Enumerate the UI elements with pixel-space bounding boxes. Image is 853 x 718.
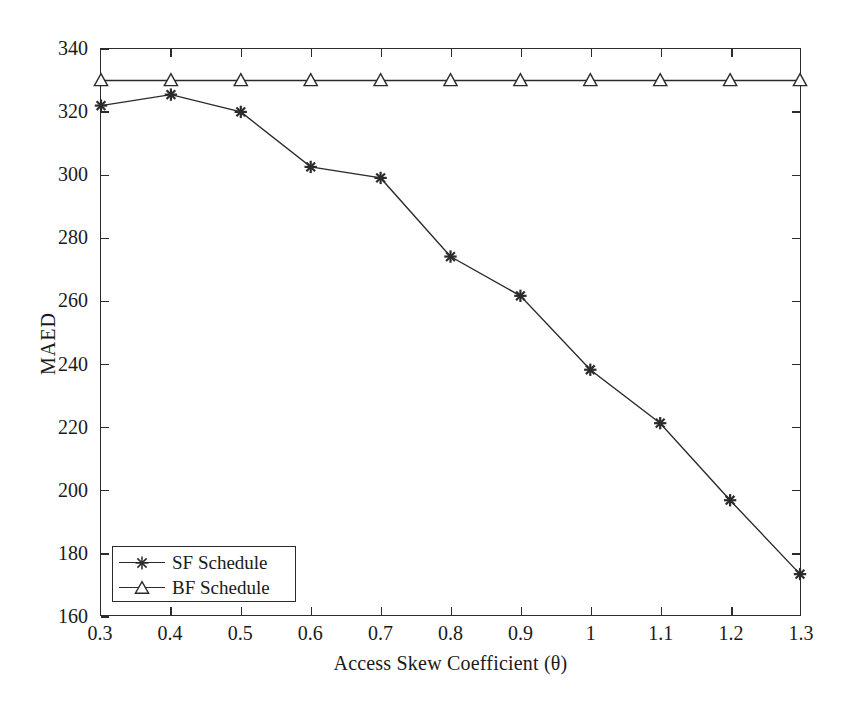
x-axis-tick bbox=[241, 607, 242, 615]
triangle-marker-icon bbox=[234, 74, 247, 86]
chart-legend: SF Schedule BF Schedule bbox=[112, 546, 296, 602]
legend-entry-bf: BF Schedule bbox=[119, 575, 289, 600]
asterisk-marker-icon bbox=[514, 290, 526, 302]
y-axis-tick bbox=[101, 553, 109, 554]
asterisk-marker-icon bbox=[119, 553, 165, 573]
x-axis-tick bbox=[731, 49, 732, 57]
y-axis-tick-label: 180 bbox=[58, 543, 88, 563]
legend-label-sf: SF Schedule bbox=[165, 553, 268, 573]
y-axis-title: MAED bbox=[37, 284, 60, 404]
y-axis-tick bbox=[792, 175, 800, 176]
triangle-marker-icon bbox=[723, 74, 736, 86]
triangle-marker-icon bbox=[793, 74, 806, 86]
y-axis-tick-label: 260 bbox=[58, 290, 88, 310]
x-axis-tick bbox=[731, 607, 732, 615]
asterisk-marker-icon bbox=[95, 99, 107, 111]
x-axis-tick bbox=[241, 49, 242, 57]
y-axis-tick-label: 200 bbox=[58, 480, 88, 500]
asterisk-marker-icon bbox=[374, 172, 386, 184]
plot-canvas bbox=[101, 49, 800, 615]
plot-area bbox=[100, 48, 801, 616]
y-axis-tick-label: 300 bbox=[58, 164, 88, 184]
x-axis-tick-label: 1.3 bbox=[771, 622, 831, 644]
x-axis-tick-label: 1 bbox=[561, 622, 621, 644]
x-axis-tick bbox=[591, 607, 592, 615]
y-axis-tick-label: 240 bbox=[58, 354, 88, 374]
triangle-marker-icon bbox=[584, 74, 597, 86]
triangle-marker-icon bbox=[164, 74, 177, 86]
series-line-sf-schedule bbox=[101, 95, 800, 575]
x-axis-tick bbox=[311, 49, 312, 57]
legend-entry-sf: SF Schedule bbox=[119, 550, 289, 575]
y-axis-tick bbox=[792, 301, 800, 302]
y-axis-tick bbox=[101, 301, 109, 302]
x-axis-tick-label: 1.2 bbox=[701, 622, 761, 644]
triangle-marker-icon bbox=[514, 74, 527, 86]
y-axis-tick-label: 320 bbox=[58, 101, 88, 121]
triangle-marker-icon bbox=[654, 74, 667, 86]
asterisk-marker-icon bbox=[165, 88, 177, 100]
y-axis-tick bbox=[792, 364, 800, 365]
x-axis-tick bbox=[381, 49, 382, 57]
asterisk-marker-icon bbox=[444, 250, 456, 262]
x-axis-tick bbox=[521, 607, 522, 615]
triangle-marker-icon bbox=[94, 74, 107, 86]
x-axis-tick bbox=[451, 49, 452, 57]
y-axis-tick-label: 220 bbox=[58, 417, 88, 437]
y-axis-tick bbox=[101, 490, 109, 491]
x-axis-tick bbox=[451, 607, 452, 615]
triangle-marker-icon bbox=[119, 578, 165, 598]
x-axis-tick bbox=[661, 49, 662, 57]
chart-figure: 160180200220240260280300320340 MAED Acce… bbox=[0, 0, 853, 718]
y-axis-tick bbox=[101, 238, 109, 239]
x-axis-tick bbox=[521, 49, 522, 57]
x-axis-tick bbox=[311, 607, 312, 615]
x-axis-tick bbox=[170, 607, 171, 615]
legend-label-bf: BF Schedule bbox=[165, 578, 270, 598]
x-axis-title: Access Skew Coefficient (θ) bbox=[100, 652, 801, 675]
x-axis-tick bbox=[591, 49, 592, 57]
triangle-marker-icon bbox=[374, 74, 387, 86]
asterisk-marker-icon bbox=[794, 568, 806, 580]
y-axis-tick-label: 280 bbox=[58, 227, 88, 247]
y-axis-tick bbox=[101, 175, 109, 176]
y-axis-tick bbox=[101, 111, 109, 112]
triangle-marker-icon bbox=[444, 74, 457, 86]
asterisk-marker-icon bbox=[235, 106, 247, 118]
x-axis-tick-label: 0.3 bbox=[70, 622, 130, 644]
x-axis-tick-label: 0.5 bbox=[210, 622, 270, 644]
x-axis-tick bbox=[661, 607, 662, 615]
asterisk-marker-icon bbox=[654, 417, 666, 429]
triangle-marker-icon bbox=[304, 74, 317, 86]
x-axis-tick-label: 0.4 bbox=[140, 622, 200, 644]
y-axis-tick bbox=[101, 364, 109, 365]
y-axis-tick bbox=[792, 111, 800, 112]
x-axis-tick-label: 0.9 bbox=[491, 622, 551, 644]
y-axis-tick bbox=[792, 490, 800, 491]
x-axis-tick bbox=[170, 49, 171, 57]
asterisk-marker-icon bbox=[305, 161, 317, 173]
x-axis-tick-label: 0.7 bbox=[350, 622, 410, 644]
x-axis-tick-label: 1.1 bbox=[631, 622, 691, 644]
y-axis-tick bbox=[101, 616, 109, 617]
y-axis-tick bbox=[792, 427, 800, 428]
asterisk-marker-icon bbox=[584, 364, 596, 376]
y-axis-tick bbox=[101, 48, 109, 49]
asterisk-marker-icon bbox=[724, 494, 736, 506]
x-axis-tick bbox=[381, 607, 382, 615]
y-axis-tick-label: 340 bbox=[58, 38, 88, 58]
y-axis-tick bbox=[101, 427, 109, 428]
y-axis-tick bbox=[792, 553, 800, 554]
y-axis-tick bbox=[792, 238, 800, 239]
x-axis-tick-label: 0.6 bbox=[280, 622, 340, 644]
x-axis-tick-label: 0.8 bbox=[421, 622, 481, 644]
